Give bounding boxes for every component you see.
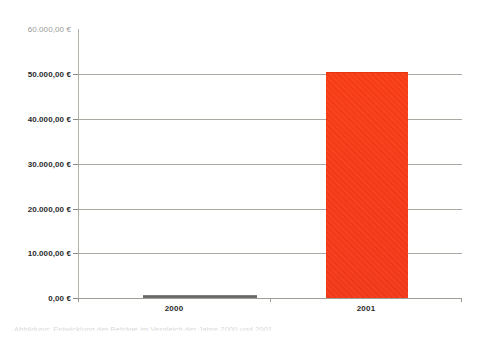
bar-chart-figure: 60.000,00 € 50.000,00 € 40.000,00 € 30.0… — [0, 0, 479, 337]
x-axis-label-2001: 2001 — [326, 304, 406, 313]
y-axis-label-40000: 40.000,00 € — [1, 115, 71, 124]
figure-caption: Abbildung: Entwicklung der Beträge im Ve… — [14, 325, 454, 337]
plot-area — [78, 29, 462, 298]
y-axis-label-50000: 50.000,00 € — [1, 70, 71, 79]
x-tick-end — [461, 298, 462, 302]
x-tick-start — [78, 298, 79, 302]
y-axis-label-10000: 10.000,00 € — [1, 249, 71, 258]
y-axis-label-30000: 30.000,00 € — [1, 160, 71, 169]
y-axis-label-20000: 20.000,00 € — [1, 205, 71, 214]
bar-2000 — [143, 295, 257, 298]
gridline-60000 — [78, 29, 462, 30]
x-tick-middle — [270, 298, 271, 302]
x-axis-label-2000: 2000 — [134, 304, 214, 313]
y-axis-label-60000: 60.000,00 € — [1, 25, 71, 34]
y-axis-labels: 60.000,00 € 50.000,00 € 40.000,00 € 30.0… — [0, 0, 71, 337]
bar-2001 — [326, 72, 408, 298]
y-axis-label-0: 0,00 € — [1, 294, 71, 303]
